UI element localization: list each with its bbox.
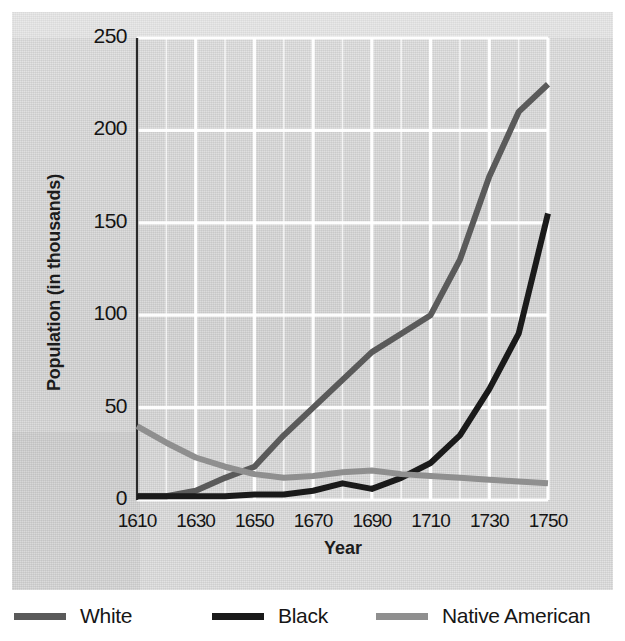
y-tick-label: 150 xyxy=(65,209,127,233)
legend-label: Native American xyxy=(442,604,590,628)
legend-label: White xyxy=(80,604,132,628)
legend-label: Black xyxy=(278,604,328,628)
y-tick-label: 250 xyxy=(65,24,127,48)
x-axis-title: Year xyxy=(137,538,549,559)
chart-legend: WhiteBlackNative American xyxy=(0,600,625,638)
legend-swatch-icon xyxy=(212,613,264,620)
x-tick-label: 1670 xyxy=(282,510,344,532)
legend-item-white: White xyxy=(14,600,132,632)
x-tick-label: 1710 xyxy=(400,510,462,532)
legend-item-native-american: Native American xyxy=(376,600,590,632)
x-tick-label: 1610 xyxy=(106,510,168,532)
y-tick-label: 50 xyxy=(65,394,127,418)
y-tick-label: 200 xyxy=(65,116,127,140)
y-tick-label: 0 xyxy=(65,486,127,510)
x-tick-label: 1650 xyxy=(223,510,285,532)
y-axis-title: Population (in thousands) xyxy=(44,163,65,403)
y-tick-label: 100 xyxy=(65,301,127,325)
x-tick-label: 1690 xyxy=(341,510,403,532)
vertical-gridlines xyxy=(137,38,548,500)
legend-swatch-icon xyxy=(14,613,66,620)
legend-swatch-icon xyxy=(376,613,428,620)
x-tick-label: 1630 xyxy=(165,510,227,532)
legend-item-black: Black xyxy=(212,600,328,632)
x-tick-label: 1750 xyxy=(517,510,579,532)
x-tick-label: 1730 xyxy=(458,510,520,532)
